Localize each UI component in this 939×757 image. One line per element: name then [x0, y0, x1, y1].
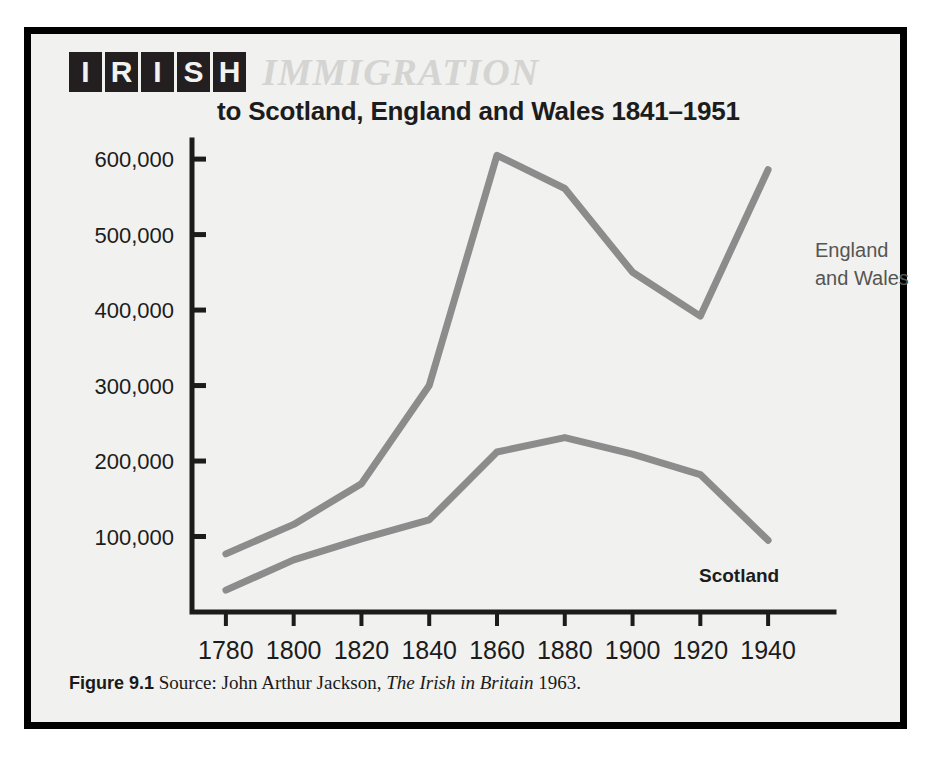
y-axis-tick-label: 200,000 [94, 449, 174, 474]
x-axis-tick-label: 1780 [198, 636, 254, 664]
caption-figure-number: Figure 9.1 [69, 673, 154, 693]
y-axis-tick-label: 500,000 [94, 223, 174, 248]
x-axis-tick-label: 1880 [537, 636, 593, 664]
y-axis-tick-label: 100,000 [94, 525, 174, 550]
x-axis-tick-label: 1900 [605, 636, 661, 664]
caption-year: 1963. [534, 672, 582, 693]
series-label-england-and-wales-2: and Wales [815, 267, 909, 289]
series-label-england-and-wales: England [815, 239, 888, 261]
x-axis-tick-label: 1840 [401, 636, 457, 664]
caption-book-title: The Irish in Britain [386, 672, 533, 693]
y-axis-tick-label: 300,000 [94, 374, 174, 399]
x-axis-tick-label: 1800 [266, 636, 322, 664]
chart-plot-area: 100,000200,000300,000400,000500,000600,0… [31, 34, 914, 736]
x-axis-tick-label: 1860 [469, 636, 525, 664]
line-chart-svg: 100,000200,000300,000400,000500,000600,0… [31, 34, 914, 736]
x-axis-tick-label: 1940 [740, 636, 796, 664]
series-label-scotland: Scotland [699, 565, 779, 586]
caption-source: Source: John Arthur Jackson, [154, 672, 386, 693]
figure-caption: Figure 9.1 Source: John Arthur Jackson, … [69, 672, 869, 694]
x-axis-tick-label: 1820 [334, 636, 390, 664]
x-axis-tick-label: 1920 [673, 636, 729, 664]
y-axis-tick-label: 400,000 [94, 298, 174, 323]
figure-frame: I R I S H IMMIGRATION to Scotland, Engla… [24, 27, 907, 729]
chart-axes [192, 140, 834, 612]
series-line-england-and-wales [226, 155, 768, 554]
figure-page: I R I S H IMMIGRATION to Scotland, Engla… [0, 0, 939, 757]
y-axis-tick-label: 600,000 [94, 147, 174, 172]
